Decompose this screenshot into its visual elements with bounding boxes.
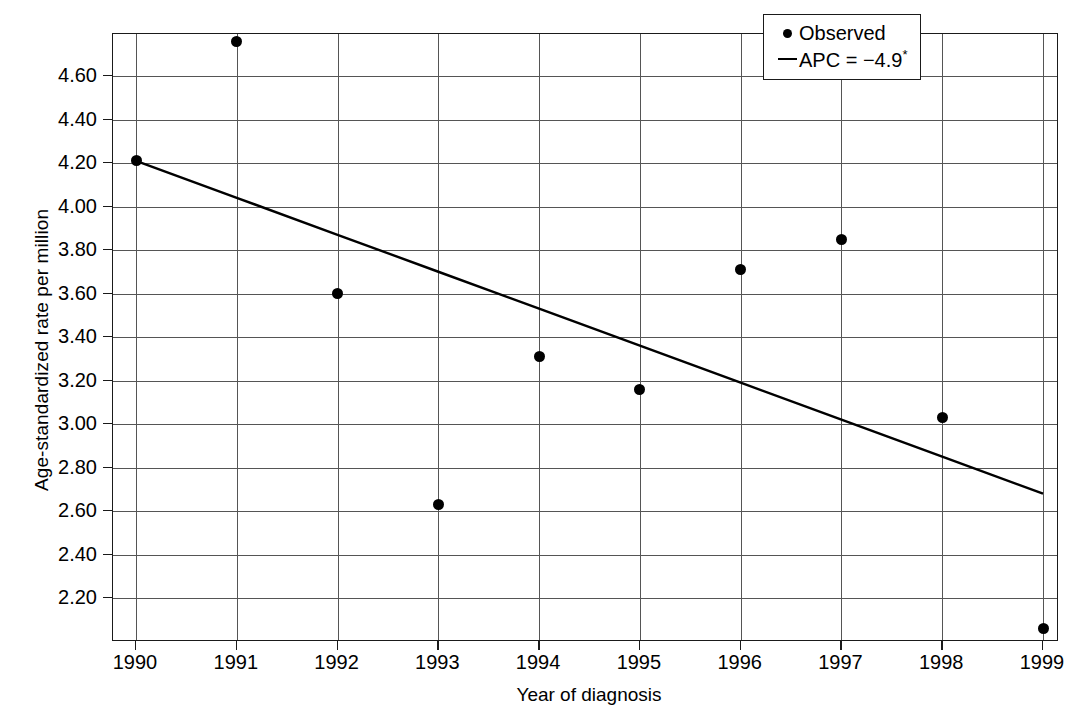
x-axis-tick-label: 1997 <box>785 652 895 672</box>
data-point <box>1038 623 1049 634</box>
legend-item-observed: Observed <box>775 20 907 46</box>
y-axis-tick <box>103 423 112 424</box>
y-axis-tick <box>103 75 112 76</box>
data-point <box>937 412 948 423</box>
y-axis-tick-label: 3.40 <box>27 326 97 346</box>
x-axis-tick <box>639 641 640 650</box>
data-point <box>231 36 242 47</box>
x-axis-tick-label: 1996 <box>685 652 795 672</box>
y-axis-tick-label: 4.60 <box>27 65 97 85</box>
y-axis-tick <box>103 162 112 163</box>
y-axis-tick-label: 3.80 <box>27 239 97 259</box>
y-axis-tick-label: 3.60 <box>27 283 97 303</box>
x-axis-tick <box>236 641 237 650</box>
chart-figure: Age-standardized rate per million Year o… <box>0 0 1090 724</box>
legend-apc-text: APC = −4.9 <box>799 48 902 70</box>
y-axis-tick-label: 4.00 <box>27 196 97 216</box>
legend-apc-superscript: * <box>902 47 907 62</box>
line-marker-icon <box>775 58 799 60</box>
data-point <box>534 351 545 362</box>
y-axis-tick <box>103 510 112 511</box>
x-axis-tick-label: 1992 <box>282 652 392 672</box>
x-axis-tick-label: 1994 <box>483 652 593 672</box>
y-axis-tick-label: 2.40 <box>27 544 97 564</box>
y-axis-tick <box>103 249 112 250</box>
x-axis-tick <box>840 641 841 650</box>
y-axis-tick <box>103 380 112 381</box>
x-axis-tick-label: 1990 <box>80 652 190 672</box>
y-axis-tick-label: 2.60 <box>27 500 97 520</box>
y-axis-tick <box>103 597 112 598</box>
y-axis-tick <box>103 467 112 468</box>
x-axis-tick <box>538 641 539 650</box>
y-axis-tick-label: 3.20 <box>27 370 97 390</box>
x-axis-tick-label: 1999 <box>987 652 1090 672</box>
x-axis-tick <box>740 641 741 650</box>
y-axis-tick <box>103 554 112 555</box>
y-axis-tick-label: 4.40 <box>27 109 97 129</box>
x-axis-title: Year of diagnosis <box>135 684 1043 706</box>
legend-label-apc: APC = −4.9* <box>799 47 907 72</box>
y-axis-tick-label: 4.20 <box>27 152 97 172</box>
y-axis-tick-label: 3.00 <box>27 413 97 433</box>
legend-label-observed: Observed <box>799 22 886 45</box>
x-axis-tick-label: 1998 <box>886 652 996 672</box>
x-axis-tick-label: 1991 <box>181 652 291 672</box>
x-axis-tick <box>941 641 942 650</box>
data-point <box>836 234 847 245</box>
apc-trend-line <box>113 34 1059 642</box>
x-axis-tick-label: 1995 <box>584 652 694 672</box>
x-axis-tick-label: 1993 <box>382 652 492 672</box>
data-point <box>131 155 142 166</box>
y-axis-tick <box>103 293 112 294</box>
x-axis-tick <box>337 641 338 650</box>
chart-legend: Observed APC = −4.9* <box>763 14 921 80</box>
y-axis-tick <box>103 206 112 207</box>
legend-item-apc: APC = −4.9* <box>775 46 907 72</box>
data-point <box>332 288 343 299</box>
dot-marker-icon <box>775 29 799 38</box>
y-axis-tick-label: 2.80 <box>27 457 97 477</box>
y-axis-tick <box>103 336 112 337</box>
x-axis-tick <box>135 641 136 650</box>
y-axis-tick-label: 2.20 <box>27 587 97 607</box>
y-axis-tick <box>103 119 112 120</box>
data-point <box>433 499 444 510</box>
x-axis-tick <box>1042 641 1043 650</box>
plot-area <box>112 33 1058 641</box>
x-axis-tick <box>437 641 438 650</box>
